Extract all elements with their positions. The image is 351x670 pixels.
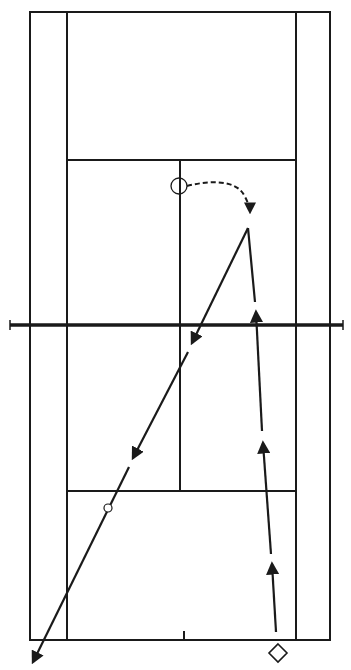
incoming-ball-path (248, 228, 276, 632)
ball-bounce-marker (104, 504, 112, 512)
tennis-court-diagram (0, 0, 351, 670)
opponent-position-diamond (269, 644, 287, 662)
outgoing-ball-path (33, 228, 248, 662)
player-run-dashed-path (187, 182, 250, 212)
net (10, 320, 343, 330)
